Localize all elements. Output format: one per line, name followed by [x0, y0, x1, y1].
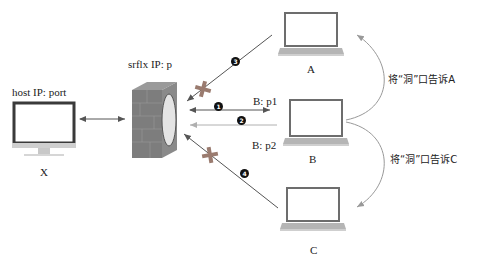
host-label: X: [40, 166, 48, 178]
step2-badge: 2: [237, 116, 246, 125]
host-x-monitor-icon: [12, 103, 76, 156]
blocked-cross-icon: [202, 147, 218, 163]
nat-firewall-icon: [132, 82, 177, 158]
step1-badge: 1: [214, 102, 223, 111]
peer-b-label: B: [309, 153, 316, 165]
laptop-a-icon: [278, 13, 344, 56]
p1-label: B: p1: [253, 95, 277, 107]
nat-caption: srflx IP: p: [128, 58, 172, 70]
step4-badge: 4: [240, 169, 249, 178]
tell-c-curve: [346, 122, 384, 207]
step3-badge: 3: [231, 57, 240, 66]
tell-a-annotation: 将“洞”口告诉A: [388, 71, 455, 86]
p2-label: B: p2: [252, 139, 276, 151]
tell-c-annotation: 将“洞”口告诉C: [390, 151, 457, 166]
host-caption: host IP: port: [12, 86, 66, 98]
laptop-b-icon: [283, 100, 349, 146]
step3-arrow: [187, 35, 272, 101]
laptop-c-icon: [280, 188, 346, 231]
peer-c-label: C: [310, 244, 317, 256]
blocked-cross-icon: [195, 81, 211, 97]
tell-a-curve: [346, 35, 384, 120]
diagram-canvas: [0, 0, 484, 257]
peer-a-label: A: [307, 63, 315, 75]
